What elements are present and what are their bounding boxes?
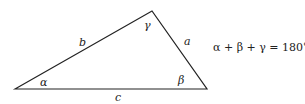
- angle-sum-equation: α + β + γ = 180°: [213, 41, 305, 54]
- side-b-label: b: [79, 36, 86, 49]
- side-a-label: a: [184, 35, 191, 48]
- triangle-diagram: b γ a α β c α + β + γ = 180°: [0, 0, 305, 104]
- angle-gamma-label: γ: [144, 19, 151, 32]
- angle-beta-label: β: [177, 74, 184, 87]
- side-c-label: c: [115, 91, 121, 104]
- angle-alpha-label: α: [40, 76, 48, 89]
